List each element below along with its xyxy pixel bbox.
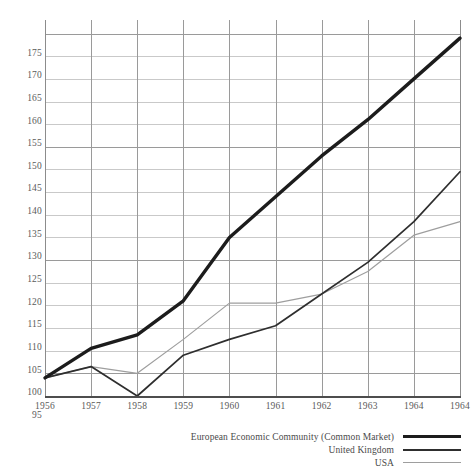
series-line bbox=[45, 222, 460, 378]
legend-swatch-eec bbox=[403, 435, 461, 438]
y-axis-tick-label: 95 bbox=[0, 410, 42, 420]
y-axis-tick-labels: 1751701651601551501451401351301251201151… bbox=[0, 20, 42, 396]
y-axis-tick-label: 165 bbox=[0, 93, 42, 103]
legend-swatch-usa bbox=[403, 462, 461, 463]
legend-item: European Economic Community (Common Mark… bbox=[195, 430, 461, 443]
y-axis-tick-label: 170 bbox=[0, 70, 42, 80]
y-axis-tick-label: 155 bbox=[0, 138, 42, 148]
y-axis-tick-label: 160 bbox=[0, 116, 42, 126]
x-axis-tick-label: 1963 bbox=[358, 401, 378, 411]
gridline-vertical bbox=[460, 20, 461, 396]
series-line bbox=[45, 172, 460, 396]
legend-label-usa: USA bbox=[375, 458, 394, 468]
x-axis-tick-labels: 1956195719581959196019611962196319641964 bbox=[45, 399, 460, 419]
y-axis-tick-label: 105 bbox=[0, 365, 42, 375]
x-axis-tick-label: 1958 bbox=[127, 401, 147, 411]
legend-item: USA bbox=[195, 456, 461, 469]
x-axis-tick-label: 1956 bbox=[35, 401, 55, 411]
y-axis-tick-label: 140 bbox=[0, 206, 42, 216]
x-axis-tick-label: 1959 bbox=[173, 401, 193, 411]
legend-item: United Kingdom bbox=[195, 443, 461, 456]
y-axis-tick-label: 135 bbox=[0, 229, 42, 239]
y-axis-tick-label: 125 bbox=[0, 274, 42, 284]
series-line bbox=[45, 38, 460, 378]
x-axis-tick-label: 1964 bbox=[404, 401, 424, 411]
y-axis-tick-label: 150 bbox=[0, 161, 42, 171]
x-axis-tick-label: 1964 bbox=[450, 401, 470, 411]
legend-swatch-united-kingdom bbox=[403, 449, 461, 451]
series-lines bbox=[45, 20, 460, 396]
y-axis-tick-label: 120 bbox=[0, 297, 42, 307]
x-axis-line bbox=[45, 396, 461, 398]
legend-label-eec: European Economic Community (Common Mark… bbox=[191, 432, 394, 442]
legend-label-united-kingdom: United Kingdom bbox=[328, 445, 394, 455]
chart-figure: 1751701651601551501451401351301251201151… bbox=[0, 0, 471, 473]
y-axis-tick-label: 130 bbox=[0, 251, 42, 261]
y-axis-tick-label: 145 bbox=[0, 183, 42, 193]
x-axis-tick-label: 1957 bbox=[81, 401, 101, 411]
y-axis-tick-label: 100 bbox=[0, 387, 42, 397]
chart-legend: European Economic Community (Common Mark… bbox=[195, 430, 461, 469]
x-axis-tick-label: 1961 bbox=[266, 401, 286, 411]
y-axis-tick-label: 115 bbox=[0, 319, 42, 329]
plot-area bbox=[45, 20, 460, 396]
x-axis-tick-label: 1962 bbox=[312, 401, 332, 411]
y-axis-tick-label: 175 bbox=[0, 48, 42, 58]
x-axis-tick-label: 1960 bbox=[220, 401, 240, 411]
y-axis-tick-label: 110 bbox=[0, 342, 42, 352]
